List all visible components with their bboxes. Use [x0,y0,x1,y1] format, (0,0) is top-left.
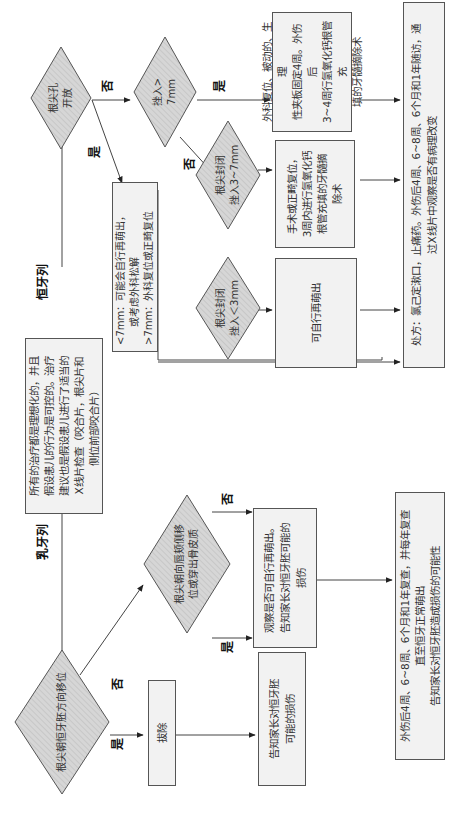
box-gt7-treatment: 外科复位、被动的、生理 性夹板固定4周。外伤后 3~4周行氢氧化钙根管充 填的牙… [272,12,352,132]
decision-text: 位或穿出骨皮质 [187,524,201,604]
box-line: 填的牙髓摘除术 [350,19,365,125]
decision-text: 7mm [165,78,179,106]
box-line: 3~4周行氢氧化钙根管充 [320,19,350,125]
box-line: 可自行再萌出 [308,283,324,343]
decision-closed-3-7mm: 根尖封闭挫入3~7mm [195,120,261,230]
label-yes: 是 [85,146,102,158]
label-primary-dentition: 乳牙列 [33,524,50,560]
decision-text: 根尖孔 [47,83,61,113]
label-no: 否 [98,80,115,92]
box-line: 观察是否可自行再萌出。 [261,523,277,633]
decision-apex-toward-germ: 根尖朝恒牙胚方向移位 [14,649,110,795]
start-line-1: 所有的治疗都是理想化的，并且 [27,356,42,496]
box-line: <7mm：可能会自行再萌出， [114,211,128,345]
decision-intrusion-gt-7mm: 挫入>7mm [133,36,197,148]
decision-text: 根尖封闭 [214,280,228,336]
decision-text: 挫入＜3mm [228,280,242,336]
start-assumption-box: 所有的治疗都是理想化的，并且 假设患儿的行为是可控的。治疗 建议也是假设患儿进行… [25,338,103,514]
box-lt3mm-treatment: 可自行再萌出 [275,258,357,368]
box-line: 损伤 [293,523,309,633]
decision-text: 根尖朝恒牙胚方向移位 [56,672,67,772]
label-yes: 是 [218,641,235,653]
decision-text: 根尖封闭 [214,145,228,206]
decision-text: 挫入3~7mm [228,145,242,206]
box-prescription-followup: 处方：氯己定漱口，止痛药。外伤后4周、6~8周、6个月和1年随访，通 过X线片中… [403,2,445,368]
box-3-7mm-treatment: 手术或正畸复位， 3周内进行氢氧化钙 根管充填的牙髓摘 除术 [275,140,355,248]
box-line: 外伤后4周、6~8周、6个月和1年复查，并每年复查 [398,510,413,742]
box-inform-parent-extract: 告知家长对恒牙胚 可能的损伤 [258,652,306,786]
box-line: 告知家长对恒牙胚 [266,679,282,759]
label-no: 否 [218,493,235,505]
box-line: 外科复位、被动的、生理 [260,19,290,125]
box-line: 直至恒牙正常萌出 [413,510,428,742]
flowchart-canvas: 恒牙列 乳牙列 所有的治疗都是理想化的，并且 假设患儿的行为是可控的。治疗 建议… [0,0,458,830]
box-open-apex-treatment: <7mm：可能会自行再萌出， 或考虑外科松解 >7mm：外科复位或正畸复位 [112,182,158,352]
decision-text: 挫入> [151,78,165,106]
box-line: 过X线片中观察是否有病理改变 [424,24,440,346]
box-line: 拔除 [154,723,170,743]
label-no: 否 [108,678,125,690]
box-primary-followup: 外伤后4周、6~8周、6个月和1年复查，并每年复查 直至恒牙正常萌出 告知家长对… [395,492,445,760]
decision-apex-open: 根尖孔开放 [30,46,92,150]
start-line-5: 侧位前部咬合片） [87,356,102,496]
decision-closed-lt-3mm: 根尖封闭挫入＜3mm [195,256,261,360]
box-line: 告知家长对恒牙胚造成损伤的可能性 [428,510,443,742]
box-line: 可能的损伤 [282,679,298,759]
label-yes: 是 [108,738,125,750]
start-line-4: X线片检查（咬合片，根尖片和 [72,356,87,496]
box-line: 除术 [330,151,345,238]
start-line-3: 建议也是假设患儿进行了适当的 [57,356,72,496]
start-line-2: 假设患儿的行为是可控的。治疗 [42,356,57,496]
box-line: >7mm：外科复位或正畸复位 [142,211,156,345]
box-line: 3周内进行氢氧化钙 [300,151,315,238]
box-extract: 拔除 [148,680,176,786]
decision-labial-displacement: 根尖朝向唇颊侧移 位或穿出骨皮质 [143,494,231,634]
box-observe-reeruption: 观察是否可自行再萌出。 告知家长对恒牙胚可能的 损伤 [253,508,317,648]
box-line: 处方：氯己定漱口，止痛药。外伤后4周、6~8周、6个月和1年随访，通 [408,24,424,346]
box-line: 告知家长对恒牙胚可能的 [277,523,293,633]
decision-text: 开放 [61,83,75,113]
box-line: 性夹板固定4周。外伤后 [290,19,320,125]
decision-text: 根尖朝向唇颊侧移 [173,524,187,604]
label-yes: 是 [210,80,227,92]
label-permanent-dentition: 恒牙列 [33,264,50,300]
box-line: 根管充填的牙髓摘 [315,151,330,238]
box-line: 手术或正畸复位， [285,151,300,238]
box-line: 或考虑外科松解 [128,211,142,345]
